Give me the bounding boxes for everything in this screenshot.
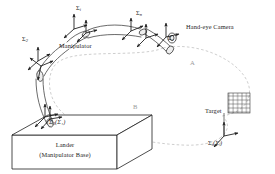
frame-alias: (Σ₁) bbox=[55, 118, 65, 125]
manipulator-joints bbox=[36, 28, 175, 128]
frame-subscript: c bbox=[172, 37, 174, 42]
target-label: Target bbox=[205, 108, 222, 114]
manipulator-linkage bbox=[36, 25, 172, 124]
path-b-label: B bbox=[133, 104, 138, 111]
target-grid bbox=[228, 93, 250, 113]
base-frame: Σ0(Σ₁) bbox=[49, 119, 65, 126]
link-n-frame: Σn bbox=[136, 10, 142, 17]
path-a-label: A bbox=[190, 60, 195, 67]
link-i-frame: Σi bbox=[76, 5, 81, 12]
camera-frame: Σc bbox=[168, 35, 174, 42]
target-frame: Σt(Σⱼ) bbox=[208, 140, 222, 147]
link-2-frame: Σ2 bbox=[22, 36, 28, 43]
frame-subscript: n bbox=[140, 12, 142, 17]
frame-subscript: i bbox=[80, 7, 81, 12]
lander-label-line1: Lander bbox=[22, 142, 108, 148]
frame-alias: (Σⱼ) bbox=[213, 139, 222, 146]
lander-label-line2: (Manipulator Base) bbox=[16, 152, 114, 158]
hand-eye-camera-label: Hand-eye Camera bbox=[186, 24, 234, 30]
frame-subscript: 2 bbox=[26, 38, 28, 43]
manipulator-label: Manipulator bbox=[59, 43, 92, 49]
figure-canvas: Manipulator Hand-eye Camera Target Lande… bbox=[0, 0, 275, 174]
